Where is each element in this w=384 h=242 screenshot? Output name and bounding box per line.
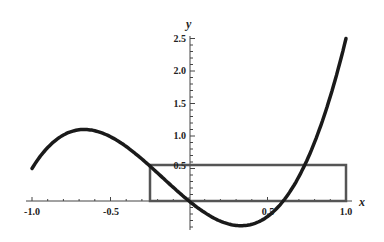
ytick-label: 1.0	[174, 130, 187, 141]
y-ticks	[190, 39, 195, 228]
ytick-label: 2.0	[174, 65, 187, 76]
ytick-label: 1.5	[174, 98, 187, 109]
xtick-label: 1.0	[340, 206, 353, 217]
y-axis-label: y	[184, 17, 192, 31]
xtick-label: 0.5	[262, 206, 275, 217]
ytick-label: 2.5	[174, 33, 187, 44]
ytick-label: 0.5	[174, 160, 187, 171]
x-axis-label: x	[358, 195, 365, 209]
chart: -1.0 -0.5 0.5 1.0 x 0.5 1.0 1.5 2.0 2.5 …	[0, 0, 384, 242]
xtick-label: -1.0	[24, 206, 40, 217]
xtick-label: -0.5	[103, 206, 119, 217]
